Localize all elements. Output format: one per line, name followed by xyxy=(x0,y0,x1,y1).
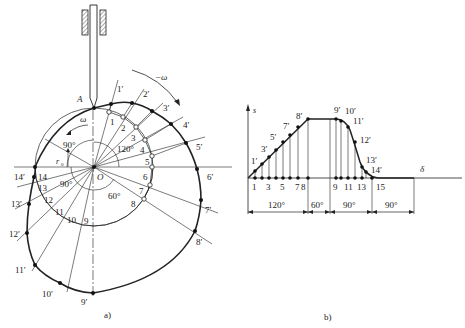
label-5p: 5′ xyxy=(196,142,203,152)
label-9p: 9′ xyxy=(81,297,88,307)
tick-8: 8 xyxy=(301,182,306,192)
label-b-14p: 14′ xyxy=(371,165,382,175)
label-14p: 14′ xyxy=(14,172,25,182)
label-b-5p: 5′ xyxy=(270,132,277,142)
label-2p: 2′ xyxy=(143,89,150,99)
tick-3: 3 xyxy=(266,182,271,192)
tick-9: 9 xyxy=(333,182,338,192)
cam-diagram-canvas: A O r 0 ω −ω 90° 120° 90° 60° 1′ 2′ 3′ 4… xyxy=(0,0,465,328)
tick-1: 1 xyxy=(252,182,257,192)
label-1p: 1′ xyxy=(117,84,124,94)
label-12: 12 xyxy=(44,195,53,205)
label-b-7p: 7′ xyxy=(283,121,290,131)
segment-90-dwell: 90° xyxy=(385,200,398,210)
label-b-3p: 3′ xyxy=(261,144,268,154)
label-b-8p: 8′ xyxy=(296,111,303,121)
label-b-10p: 10′ xyxy=(345,106,356,116)
segment-120: 120° xyxy=(268,200,286,210)
caption-a: a) xyxy=(104,310,111,320)
label-O: O xyxy=(97,172,104,182)
label-r0-sub: 0 xyxy=(61,162,64,167)
tick-15: 15 xyxy=(376,182,386,192)
label-3: 3 xyxy=(131,133,136,143)
follower-rod xyxy=(90,5,97,108)
caption-b: b) xyxy=(324,312,332,322)
label-b-12p: 12′ xyxy=(360,135,371,145)
label-s-axis: s xyxy=(253,106,256,115)
label-4: 4 xyxy=(140,145,145,155)
label-8: 8 xyxy=(131,199,136,209)
segment-60-dwell: 60° xyxy=(311,200,324,210)
tick-7: 7 xyxy=(295,182,300,192)
label-12p: 12′ xyxy=(9,229,20,239)
label-b-1p: 1′ xyxy=(251,156,258,166)
label-13: 13 xyxy=(38,183,48,193)
label-angle-90-top: 90° xyxy=(63,140,76,150)
label-2: 2 xyxy=(121,123,126,133)
figure-b-labels: s δ 1′ 3′ 5′ 7′ 8′ 9′ 10′ 11′ 12′ 13′ 14… xyxy=(251,105,425,322)
label-r0: r xyxy=(56,157,60,166)
label-b-11p: 11′ xyxy=(353,116,364,126)
curve-dots xyxy=(253,117,368,174)
label-omega: ω xyxy=(80,114,86,124)
label-1: 1 xyxy=(110,117,115,127)
label-neg-omega: −ω xyxy=(155,72,167,82)
tick-11: 11 xyxy=(344,182,353,192)
label-b-9p: 9′ xyxy=(334,105,341,115)
label-10: 10 xyxy=(67,215,77,225)
label-7: 7 xyxy=(139,186,144,196)
label-9: 9 xyxy=(84,216,89,226)
label-A: A xyxy=(76,94,83,104)
label-13p: 13′ xyxy=(11,199,22,209)
label-6: 6 xyxy=(143,172,148,182)
label-angle-90-bottom: 90° xyxy=(60,179,73,189)
guide-block-right xyxy=(100,10,106,35)
label-10p: 10′ xyxy=(42,289,53,299)
label-14: 14 xyxy=(38,172,48,182)
label-angle-60: 60° xyxy=(108,191,121,201)
label-3p: 3′ xyxy=(163,103,170,113)
label-4p: 4′ xyxy=(183,120,190,130)
tick-5: 5 xyxy=(280,182,285,192)
label-angle-120: 120° xyxy=(117,144,135,154)
label-7p: 7′ xyxy=(205,205,212,215)
label-8p: 8′ xyxy=(196,237,203,247)
segment-90-return: 90° xyxy=(343,200,356,210)
label-11p: 11′ xyxy=(15,265,26,275)
label-11: 11 xyxy=(55,207,64,217)
label-delta-axis: δ xyxy=(420,164,425,174)
tick-13: 13 xyxy=(357,182,367,192)
label-5: 5 xyxy=(145,157,150,167)
displacement-curve xyxy=(248,119,414,178)
label-6p: 6′ xyxy=(207,172,214,182)
label-b-13p: 13′ xyxy=(366,155,377,165)
guide-block-left xyxy=(82,10,88,35)
